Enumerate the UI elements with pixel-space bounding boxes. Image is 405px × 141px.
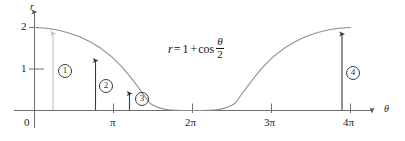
equation-annotation: r=1+cosθ2 [168,36,224,60]
origin-label: 0 [24,117,30,128]
y-tick-label-1: 1 [21,63,27,74]
x-tick-label-2pi: 2π [185,117,196,128]
y-tick-label-2: 2 [21,21,27,32]
callout-badge-3: 3 [135,92,149,106]
x-tick-label-3pi: 3π [264,117,275,128]
equation-cos: cos [198,42,214,56]
equation-fraction-numerator: θ [216,36,224,49]
x-axis-label: θ [384,104,389,114]
equation-fraction: θ2 [216,36,224,60]
callout-badge-4: 4 [346,66,360,80]
graph-figure: r θ 2 1 0 π 2π 3π 4π 1 2 3 4 r=1+cosθ2 [0,0,405,141]
equation-lhs: r [168,42,173,56]
x-tick-label-4pi: 4π [343,117,354,128]
equation-plus: + [189,42,198,56]
callout-badge-2: 2 [99,79,113,93]
equation-fraction-denominator: 2 [216,49,224,61]
callout-badge-1: 1 [58,64,72,78]
y-axis-label: r [30,2,34,12]
x-tick-label-pi: π [110,117,116,128]
